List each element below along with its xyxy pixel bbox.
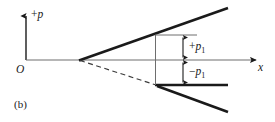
y-axis-label: +p: [31, 9, 43, 21]
figure-container: +p O x +p1 −p1 (b): [0, 0, 275, 122]
lower-value-subscript: 1: [201, 71, 205, 80]
dashed-envelope-line: [80, 61, 156, 86]
x-axis-label: x: [258, 62, 263, 74]
upper-value-label: +p1: [189, 41, 205, 53]
lower-value-label: −p1: [189, 66, 205, 78]
upper-value-subscript: 1: [201, 46, 205, 55]
y-axis-label-symbol: p: [38, 8, 44, 20]
origin-label: O: [16, 64, 24, 76]
figure-caption: (b): [14, 99, 27, 110]
upper-envelope-line: [79, 8, 228, 61]
lower-envelope-line: [157, 86, 228, 112]
